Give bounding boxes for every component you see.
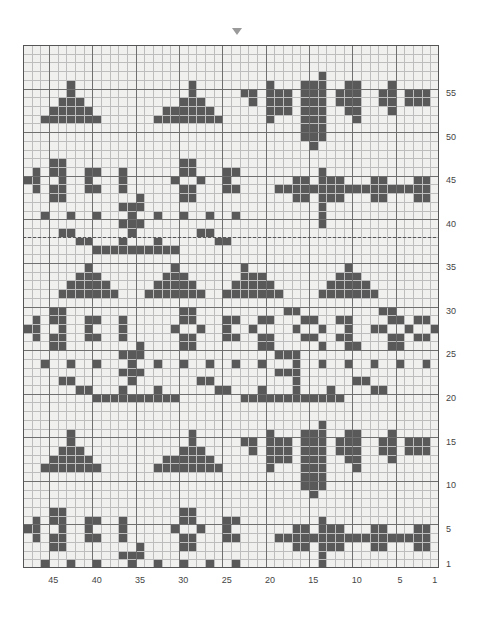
row-label-55: 55 <box>446 88 456 98</box>
row-label-40: 40 <box>446 219 456 229</box>
pattern-repeat-marker-icon <box>232 28 242 35</box>
column-label-5: 5 <box>397 575 402 585</box>
chart-grid[interactable] <box>23 45 439 568</box>
row-label-1: 1 <box>446 559 451 569</box>
row-label-5: 5 <box>446 524 451 534</box>
chart-canvas[interactable] <box>23 45 439 568</box>
column-label-1: 1 <box>432 575 437 585</box>
column-label-30: 30 <box>178 575 188 585</box>
row-label-10: 10 <box>446 480 456 490</box>
row-label-45: 45 <box>446 175 456 185</box>
row-label-30: 30 <box>446 306 456 316</box>
column-label-10: 10 <box>352 575 362 585</box>
column-label-20: 20 <box>265 575 275 585</box>
row-label-35: 35 <box>446 262 456 272</box>
column-label-25: 25 <box>222 575 232 585</box>
row-label-20: 20 <box>446 393 456 403</box>
column-label-35: 35 <box>135 575 145 585</box>
row-label-15: 15 <box>446 437 456 447</box>
row-label-50: 50 <box>446 132 456 142</box>
row-label-25: 25 <box>446 349 456 359</box>
column-label-40: 40 <box>92 575 102 585</box>
stitch-chart-page: 1510152025303540455055 15101520253035404… <box>0 0 487 623</box>
column-label-15: 15 <box>308 575 318 585</box>
column-label-45: 45 <box>48 575 58 585</box>
